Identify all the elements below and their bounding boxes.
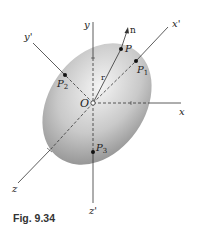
label-P: P bbox=[124, 43, 132, 54]
label-y-prime: y' bbox=[23, 31, 32, 42]
label-y: y bbox=[83, 19, 90, 30]
ellipsoid bbox=[20, 22, 174, 185]
z-axis bbox=[18, 150, 50, 183]
label-r: r bbox=[101, 73, 105, 82]
point-P2 bbox=[63, 73, 67, 77]
label-x-prime: x' bbox=[172, 18, 180, 29]
label-z-prime: z' bbox=[88, 205, 97, 216]
label-origin: O bbox=[80, 97, 89, 110]
point-P3 bbox=[91, 150, 95, 154]
point-P bbox=[119, 47, 123, 51]
point-P1 bbox=[134, 59, 138, 63]
label-n: n bbox=[130, 25, 136, 35]
diagram-canvas: y x' y' x z z' n r O P P1 P2 P3 bbox=[0, 0, 198, 233]
origin-marker bbox=[91, 101, 95, 105]
y-prime-axis bbox=[33, 43, 65, 75]
n-arrow-head-icon bbox=[125, 27, 130, 34]
label-z: z bbox=[11, 183, 18, 194]
label-x: x bbox=[179, 106, 185, 117]
x-prime-axis bbox=[136, 27, 168, 61]
figure-caption: Fig. 9.34 bbox=[13, 212, 55, 224]
